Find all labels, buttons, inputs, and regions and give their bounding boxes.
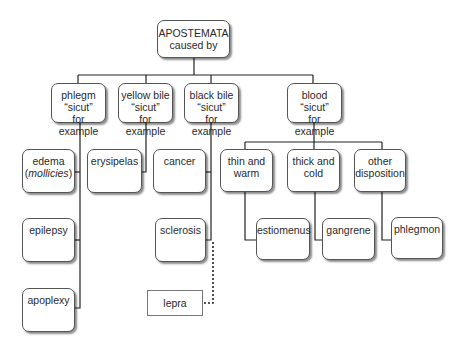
root-node-apostemata: APOSTEMATA caused by bbox=[157, 20, 230, 58]
cause-example: for example bbox=[119, 113, 172, 137]
example-sublabel-italic: mollicies bbox=[28, 167, 68, 179]
cause-sicut: “sicut” bbox=[119, 101, 172, 113]
disposition-line2: disposition bbox=[355, 167, 405, 179]
root-title: APOSTEMATA bbox=[158, 27, 229, 39]
disposition-node-thin-warm: thin and warm bbox=[220, 149, 273, 192]
disposition-line2: warm bbox=[221, 167, 272, 179]
example-node-erysipelas: erysipelas bbox=[87, 149, 142, 193]
disposition-line2: cold bbox=[288, 167, 339, 179]
cause-example: for example bbox=[288, 113, 341, 137]
example-node-lepra: lepra bbox=[147, 290, 203, 316]
cause-name: yellow bile bbox=[119, 89, 172, 101]
example-label: epilepsy bbox=[23, 224, 74, 236]
example-node-sclerosis: sclerosis bbox=[155, 218, 206, 262]
cause-name: blood bbox=[288, 89, 341, 101]
result-label: gangrene bbox=[323, 224, 374, 236]
example-label: sclerosis bbox=[156, 224, 205, 236]
result-node-phlegmon: phlegmon bbox=[391, 217, 443, 259]
cause-node-yellow-bile: yellow bile “sicut” for example bbox=[118, 83, 173, 123]
cause-sicut: “sicut” bbox=[288, 101, 341, 113]
cause-name: black bile bbox=[185, 89, 238, 101]
result-label: phlegmon bbox=[392, 223, 442, 235]
disposition-line1: thick and bbox=[288, 155, 339, 167]
cause-name: phlegm bbox=[52, 89, 105, 101]
disposition-node-other: other disposition bbox=[354, 149, 406, 192]
disposition-line1: thin and bbox=[221, 155, 272, 167]
example-node-apoplexy: apoplexy bbox=[22, 288, 75, 332]
example-node-cancer: cancer bbox=[153, 149, 206, 193]
example-label: apoplexy bbox=[23, 294, 74, 306]
result-node-gangrene: gangrene bbox=[322, 218, 375, 260]
cause-node-blood: blood “sicut” for example bbox=[287, 83, 342, 123]
example-sublabel: (mollicies) bbox=[23, 167, 74, 179]
example-label: erysipelas bbox=[88, 155, 141, 167]
result-node-estiomenus: estiomenus bbox=[256, 218, 310, 260]
example-node-edema: edema (mollicies) bbox=[22, 149, 75, 193]
example-label: edema bbox=[23, 155, 74, 167]
example-label: cancer bbox=[154, 155, 205, 167]
disposition-line1: other bbox=[355, 155, 405, 167]
disposition-node-thick-cold: thick and cold bbox=[287, 149, 340, 192]
cause-sicut: “sicut” bbox=[185, 101, 238, 113]
cause-node-phlegm: phlegm “sicut” for example bbox=[51, 83, 106, 123]
example-label: lepra bbox=[163, 297, 186, 309]
cause-example: for example bbox=[52, 113, 105, 137]
example-node-epilepsy: epilepsy bbox=[22, 218, 75, 262]
cause-sicut: “sicut” bbox=[52, 101, 105, 113]
result-label: estiomenus bbox=[257, 224, 309, 236]
cause-example: for example bbox=[185, 113, 238, 137]
root-subtitle: caused by bbox=[158, 39, 229, 51]
cause-node-black-bile: black bile “sicut” for example bbox=[184, 83, 239, 123]
